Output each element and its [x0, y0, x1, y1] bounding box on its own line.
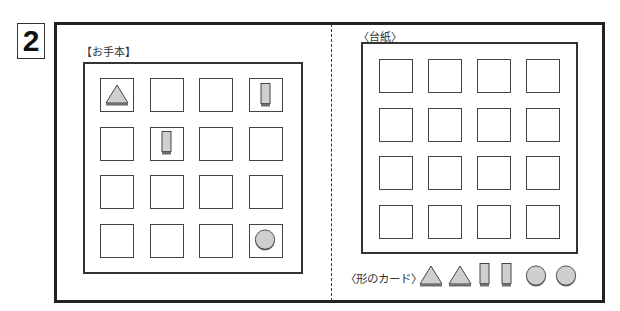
model-cell	[100, 175, 134, 209]
card-triangle-icon[interactable]	[419, 265, 443, 291]
model-cell	[100, 78, 134, 112]
cards-label: 〈形のカード〉	[345, 270, 422, 286]
question-number: 2	[17, 23, 45, 59]
model-cell	[150, 224, 184, 258]
model-cell	[199, 127, 233, 161]
card-circle-icon[interactable]	[525, 265, 547, 291]
board-cell	[428, 59, 462, 93]
board-cell	[428, 156, 462, 190]
model-cell	[249, 78, 283, 112]
model-cell	[249, 175, 283, 209]
board-cell	[428, 108, 462, 142]
board-cell	[526, 108, 560, 142]
board-cell	[379, 205, 413, 239]
model-cell	[199, 78, 233, 112]
board-cell	[526, 59, 560, 93]
model-cell	[100, 127, 134, 161]
model-cell	[150, 78, 184, 112]
board-cell	[526, 156, 560, 190]
model-cell	[100, 224, 134, 258]
card-rectangle-icon[interactable]	[501, 263, 512, 291]
board-cell	[477, 59, 511, 93]
model-cell	[150, 175, 184, 209]
board-cell	[477, 205, 511, 239]
card-triangle-icon[interactable]	[448, 265, 472, 291]
dashed-divider	[331, 24, 332, 301]
model-cell	[199, 175, 233, 209]
board-cell	[379, 59, 413, 93]
board-cell	[379, 156, 413, 190]
board-cell	[526, 205, 560, 239]
card-rectangle-icon[interactable]	[479, 263, 490, 291]
model-cell	[249, 127, 283, 161]
model-cell	[199, 224, 233, 258]
board-cell	[379, 108, 413, 142]
model-label: 【お手本】	[81, 43, 136, 59]
model-cell	[150, 127, 184, 161]
board-cell	[428, 205, 462, 239]
card-circle-icon[interactable]	[555, 265, 577, 291]
model-cell	[249, 224, 283, 258]
board-cell	[477, 156, 511, 190]
board-cell	[477, 108, 511, 142]
